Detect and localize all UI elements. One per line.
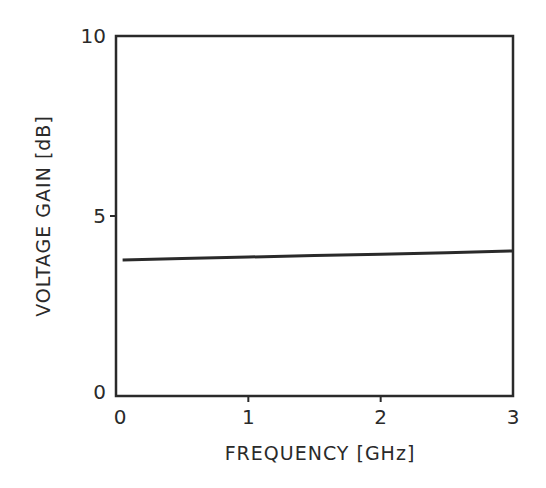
y-axis-label: VOLTAGE GAIN [dB] (32, 115, 54, 317)
y-tick-label: 0 (93, 380, 106, 404)
chart-svg: 0123 0510 FREQUENCY [GHz] VOLTAGE GAIN [… (0, 0, 546, 488)
plot-border (116, 36, 513, 396)
y-axis-ticks: 0510 (81, 24, 116, 404)
data-series (123, 251, 513, 260)
x-axis-label: FREQUENCY [GHz] (225, 442, 416, 464)
x-tick-label: 2 (374, 405, 387, 429)
plot-frame (116, 36, 513, 396)
x-axis-ticks: 0123 (114, 396, 520, 429)
x-tick-label: 3 (507, 405, 520, 429)
y-tick-label: 5 (93, 204, 106, 228)
gain-line (123, 251, 513, 260)
x-tick-label: 0 (114, 405, 127, 429)
x-tick-label: 1 (242, 405, 255, 429)
y-tick-label: 10 (81, 24, 106, 48)
